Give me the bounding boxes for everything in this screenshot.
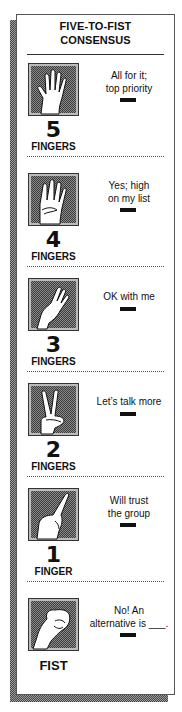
consensus-card: FIVE-TO-FIST CONSENSUS All for it; top p…	[16, 14, 175, 695]
open-hand-five-fingers-icon	[28, 63, 79, 116]
fist-hand-icon	[28, 598, 79, 651]
description: Let’s talk more	[85, 395, 173, 408]
section-five-fingers: All for it; top priority 5 FINGERS	[17, 63, 174, 168]
two-fingers-hand-icon	[28, 383, 79, 436]
description-line-1: Let’s talk more	[85, 395, 173, 408]
section-divider	[27, 156, 164, 157]
vote-tally-blank	[120, 412, 136, 416]
title-line-2: CONSENSUS	[17, 33, 174, 47]
section-divider	[27, 581, 164, 582]
section-two-fingers: Let’s talk more 2 FINGERS	[17, 383, 174, 488]
finger-label: FINGERS	[17, 251, 90, 263]
vote-tally-blank	[120, 208, 136, 212]
description-line-1: OK with me	[85, 290, 173, 303]
finger-label: FINGERS	[17, 356, 90, 368]
section-divider	[27, 476, 164, 477]
one-finger-hand-icon	[28, 488, 79, 541]
title-divider	[27, 54, 164, 55]
finger-count: 2	[28, 439, 79, 461]
finger-label: FINGERS	[17, 141, 90, 153]
section-fist: No! An alternative is ___. FIST	[17, 598, 174, 703]
section-divider	[27, 266, 164, 267]
description-line-2: the group	[85, 507, 173, 520]
description: No! An alternative is ___.	[85, 604, 173, 630]
description-line-1: No! An	[85, 604, 173, 617]
section-four-fingers: Yes; high on my list 4 FINGERS	[17, 173, 174, 278]
description: Will trust the group	[85, 494, 173, 520]
vote-tally-blank	[120, 307, 136, 311]
finger-count: 3	[28, 334, 79, 356]
finger-count: 4	[28, 229, 79, 251]
fist-label: FIST	[17, 660, 90, 672]
finger-label: FINGER	[17, 566, 90, 578]
three-fingers-hand-icon	[28, 278, 79, 331]
four-fingers-hand-icon	[28, 173, 79, 226]
section-one-finger: Will trust the group 1 FINGER	[17, 488, 174, 593]
description-line-1: All for it;	[85, 69, 173, 82]
finger-count: 1	[28, 544, 79, 566]
description: Yes; high on my list	[85, 179, 173, 205]
vote-tally-blank	[120, 633, 136, 637]
description: OK with me	[85, 290, 173, 303]
description-line-1: Will trust	[85, 494, 173, 507]
description-line-2: alternative is ___.	[85, 617, 173, 630]
description: All for it; top priority	[85, 69, 173, 95]
description-line-2: top priority	[85, 82, 173, 95]
section-three-fingers: OK with me 3 FINGERS	[17, 278, 174, 383]
finger-label: FINGERS	[17, 461, 90, 473]
vote-tally-blank	[120, 523, 136, 527]
card-title: FIVE-TO-FIST CONSENSUS	[17, 19, 174, 47]
description-line-1: Yes; high	[85, 179, 173, 192]
vote-tally-blank	[120, 98, 136, 102]
finger-count: 5	[28, 119, 79, 141]
description-line-2: on my list	[85, 192, 173, 205]
section-divider	[27, 371, 164, 372]
title-line-1: FIVE-TO-FIST	[17, 19, 174, 33]
